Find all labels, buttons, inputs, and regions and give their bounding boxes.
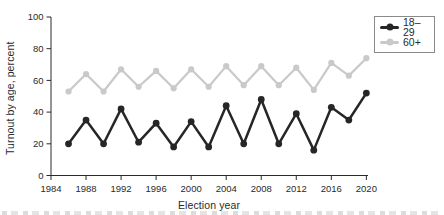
x-tick-label: 2020: [356, 183, 377, 194]
x-axis-title: Election year: [51, 199, 367, 211]
series-line-18-29: [69, 93, 367, 150]
data-point-18-29-2006: [240, 140, 247, 147]
data-point-18-29-1998: [170, 144, 177, 151]
data-point-60-plus-1988: [83, 71, 89, 77]
x-tick-label: 2008: [251, 183, 272, 194]
data-point-18-29-1992: [118, 106, 125, 113]
data-point-60-plus-2018: [346, 73, 352, 79]
data-point-60-plus-2020: [363, 55, 369, 61]
y-tick-label: 40: [33, 106, 44, 117]
legend-label: 18–29: [403, 17, 429, 38]
data-point-18-29-1990: [100, 140, 107, 147]
data-point-18-29-1994: [135, 139, 142, 146]
legend: 18–29 60+: [374, 16, 435, 53]
data-point-60-plus-1996: [153, 68, 159, 74]
data-point-18-29-2010: [275, 140, 282, 147]
x-tick-label: 1984: [40, 183, 61, 194]
data-point-60-plus-1986: [65, 88, 71, 94]
x-tick-label: 2004: [216, 183, 237, 194]
data-point-18-29-2018: [345, 117, 352, 124]
data-point-18-29-2020: [363, 90, 370, 97]
data-point-60-plus-2012: [293, 65, 299, 71]
y-axis-title: Turnout by age, percent: [3, 28, 17, 168]
legend-dot-icon: [386, 24, 393, 31]
legend-label: 60+: [403, 37, 421, 48]
data-point-60-plus-2010: [276, 82, 282, 88]
data-point-18-29-2004: [223, 102, 230, 109]
data-point-18-29-2002: [205, 144, 212, 151]
turnout-by-age-figure: 0204060801001984198819921996200020042008…: [0, 0, 444, 215]
data-point-18-29-2012: [293, 110, 300, 117]
data-point-60-plus-1990: [100, 88, 106, 94]
data-point-18-29-1988: [83, 117, 90, 124]
data-point-18-29-1986: [65, 140, 72, 147]
x-tick-label: 1992: [111, 183, 132, 194]
x-tick-label: 1988: [75, 183, 96, 194]
data-point-60-plus-1992: [118, 66, 124, 72]
x-tick-label: 2016: [321, 183, 342, 194]
data-point-60-plus-1994: [136, 84, 142, 90]
y-tick-label: 60: [33, 75, 44, 86]
y-tick-label: 80: [33, 43, 44, 54]
data-point-18-29-1996: [153, 120, 160, 127]
data-point-60-plus-2004: [223, 63, 229, 69]
legend-item-60-plus: 60+: [380, 36, 429, 48]
data-point-60-plus-2008: [258, 63, 264, 69]
legend-dot-icon: [386, 39, 393, 46]
x-tick-label: 2000: [181, 183, 202, 194]
data-point-18-29-2014: [310, 147, 317, 154]
data-point-60-plus-2006: [241, 82, 247, 88]
x-tick-label: 1996: [146, 183, 167, 194]
data-point-18-29-2016: [328, 104, 335, 111]
data-point-60-plus-2016: [328, 60, 334, 66]
data-point-60-plus-2002: [206, 84, 212, 90]
y-tick-label: 0: [38, 170, 43, 181]
legend-item-18-29: 18–29: [380, 21, 429, 33]
series-line-60-plus: [69, 58, 367, 91]
y-tick-label: 20: [33, 138, 44, 149]
data-point-60-plus-1998: [171, 85, 177, 91]
legend-line-marker-icon: [380, 41, 399, 44]
data-point-60-plus-2000: [188, 66, 194, 72]
legend-line-marker-icon: [380, 26, 399, 29]
data-point-60-plus-2014: [311, 87, 317, 93]
data-point-18-29-2000: [188, 118, 195, 125]
data-point-18-29-2008: [258, 96, 265, 103]
cropped-caption-fragment: [2, 211, 442, 215]
x-tick-label: 2012: [286, 183, 307, 194]
y-tick-label: 100: [28, 11, 44, 22]
